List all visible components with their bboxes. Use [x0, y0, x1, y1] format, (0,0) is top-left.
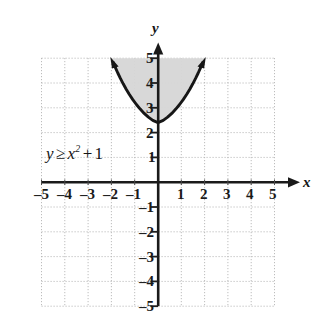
inequality-exponent: 2	[75, 143, 80, 154]
inequality-constant: 1	[95, 144, 104, 163]
y-tick-label-3: 3	[146, 101, 154, 116]
inequality-lhs: y	[46, 144, 54, 163]
y-tick-label-5: 5	[146, 51, 154, 66]
graph-figure: x y –5 –4 –3 –2 –1 1 2 3 4 5 5 4 3 2 1 –…	[0, 0, 320, 319]
y-tick-label--2: –2	[139, 225, 154, 240]
y-tick-label--4: –4	[139, 274, 154, 289]
inequality-annotation: y≥x2+1	[46, 144, 103, 164]
x-tick-label-2: 2	[200, 187, 208, 202]
y-tick-label--3: –3	[139, 250, 154, 265]
inequality-plus: +	[81, 144, 95, 163]
y-tick-label-1: 1	[148, 150, 156, 165]
y-tick-label-2: 2	[146, 126, 154, 141]
y-axis-arrowhead	[153, 43, 163, 55]
y-tick-label-4: 4	[146, 76, 154, 91]
x-tick-label--5: –5	[34, 187, 49, 202]
x-tick-label-3: 3	[223, 187, 231, 202]
x-axis-label: x	[303, 175, 311, 190]
inequality-relation: ≥	[54, 144, 68, 163]
x-tick-label-4: 4	[246, 187, 254, 202]
x-tick-label--4: –4	[57, 187, 72, 202]
y-tick-label--5: –5	[139, 299, 154, 314]
x-axis-arrowhead	[288, 177, 300, 187]
y-tick-label--1: –1	[139, 200, 154, 215]
x-tick-label-5: 5	[269, 187, 277, 202]
y-axis-label: y	[152, 21, 159, 36]
x-tick-label--3: –3	[80, 187, 95, 202]
x-tick-label--2: –2	[103, 187, 118, 202]
x-tick-label-1: 1	[177, 187, 185, 202]
